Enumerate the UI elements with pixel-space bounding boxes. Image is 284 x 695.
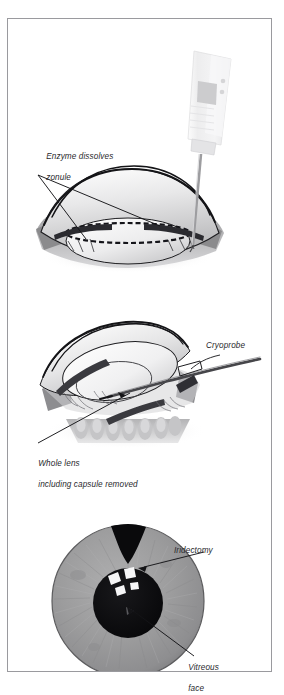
- figure-frame: Enzyme dissolves zonule: [7, 18, 272, 672]
- vitreous-face-label: Vitreous face: [174, 653, 219, 695]
- panel3-artwork: [8, 19, 271, 671]
- vitreous-line-2: face: [188, 684, 204, 693]
- vitreous-line-1: Vitreous: [188, 663, 219, 672]
- panel-postoperative-front-view: Iridectomy Vitreous face: [8, 19, 271, 671]
- iridectomy-label: Iridectomy: [174, 546, 213, 556]
